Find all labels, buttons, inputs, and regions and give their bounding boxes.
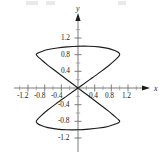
x-tick-label-neg-1-2: -1.2 <box>17 92 28 99</box>
y-tick-label-0-4: 0.4 <box>61 67 70 74</box>
plot-canvas <box>0 0 163 161</box>
x-tick-label-neg-0-8: -0.8 <box>34 92 45 99</box>
y-tick-label-0-8: 0.8 <box>61 51 70 58</box>
y-axis-arrowhead <box>75 13 80 21</box>
x-tick-label-neg-0-4: -0.4 <box>51 92 62 99</box>
x-axis-arrowhead <box>142 85 150 90</box>
x-axis-label: x <box>154 85 157 93</box>
x-tick-label-0-4: 0.4 <box>89 92 98 99</box>
y-tick-label-neg-1-2: -1.2 <box>58 134 69 141</box>
y-tick-label-neg-0-4: -0.4 <box>58 101 69 108</box>
x-tick-label-1-2: 1.2 <box>122 92 131 99</box>
x-tick-label-0-8: 0.8 <box>105 92 114 99</box>
y-axis-label: y <box>76 5 79 13</box>
y-tick-label-1-2: 1.2 <box>61 34 70 41</box>
y-tick-label-neg-0-8: -0.8 <box>58 117 69 124</box>
lissajous-curve-figure: -1.2 -0.8 -0.4 0.4 0.8 1.2 1.2 0.8 0.4 -… <box>0 0 163 161</box>
